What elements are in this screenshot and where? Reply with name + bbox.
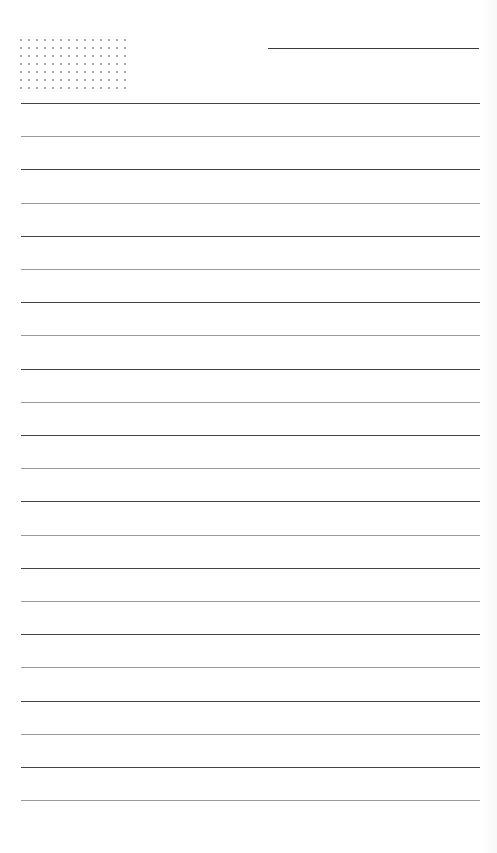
grid-dot xyxy=(44,71,46,73)
grid-dot xyxy=(28,47,30,49)
grid-dot xyxy=(84,39,86,41)
grid-dot xyxy=(60,55,62,57)
ruled-line xyxy=(21,203,480,204)
grid-dot xyxy=(108,87,110,89)
grid-dot xyxy=(60,71,62,73)
ruled-line xyxy=(21,302,480,303)
grid-dot xyxy=(92,87,94,89)
page-edge-shadow xyxy=(483,0,497,853)
grid-dot xyxy=(76,87,78,89)
grid-dot xyxy=(20,55,22,57)
grid-dot xyxy=(28,63,30,65)
grid-dot xyxy=(100,55,102,57)
grid-dot xyxy=(84,87,86,89)
grid-dot xyxy=(68,79,70,81)
grid-dot xyxy=(68,63,70,65)
grid-dot xyxy=(36,71,38,73)
grid-dot xyxy=(100,39,102,41)
grid-dot xyxy=(60,63,62,65)
grid-dot xyxy=(76,63,78,65)
grid-dot xyxy=(20,47,22,49)
grid-dot xyxy=(108,71,110,73)
grid-dot xyxy=(124,39,126,41)
grid-dot xyxy=(68,47,70,49)
grid-dot xyxy=(84,47,86,49)
grid-dot xyxy=(44,79,46,81)
grid-dot xyxy=(36,39,38,41)
ruled-line xyxy=(21,601,480,602)
grid-dot xyxy=(108,63,110,65)
grid-dot xyxy=(100,71,102,73)
grid-dot xyxy=(20,71,22,73)
grid-dot xyxy=(108,79,110,81)
grid-dot xyxy=(28,79,30,81)
title-line xyxy=(268,48,479,49)
grid-dot xyxy=(28,55,30,57)
ruled-line xyxy=(21,568,480,569)
grid-dot xyxy=(44,63,46,65)
ruled-line xyxy=(21,335,480,336)
grid-dot xyxy=(68,71,70,73)
grid-dot xyxy=(44,55,46,57)
grid-dot xyxy=(116,71,118,73)
grid-dot xyxy=(116,55,118,57)
grid-dot xyxy=(20,39,22,41)
grid-dot xyxy=(68,55,70,57)
grid-dot xyxy=(36,63,38,65)
grid-dot xyxy=(36,55,38,57)
ruled-line xyxy=(21,468,480,469)
grid-dot xyxy=(28,39,30,41)
grid-dot xyxy=(108,39,110,41)
grid-dot xyxy=(76,47,78,49)
grid-dot xyxy=(52,47,54,49)
grid-dot xyxy=(60,87,62,89)
grid-dot xyxy=(76,71,78,73)
grid-dot xyxy=(92,47,94,49)
grid-dot xyxy=(116,47,118,49)
grid-dot xyxy=(44,47,46,49)
ruled-line xyxy=(21,369,480,370)
grid-dot xyxy=(68,39,70,41)
grid-dot xyxy=(60,47,62,49)
grid-dot xyxy=(68,87,70,89)
grid-dot xyxy=(100,47,102,49)
grid-dot xyxy=(84,55,86,57)
grid-dot xyxy=(36,47,38,49)
grid-dot xyxy=(124,87,126,89)
grid-dot xyxy=(76,55,78,57)
ruled-line xyxy=(21,701,480,702)
ruled-line xyxy=(21,169,480,170)
grid-dot xyxy=(28,87,30,89)
ruled-line xyxy=(21,535,480,536)
grid-dot xyxy=(116,87,118,89)
grid-dot xyxy=(52,55,54,57)
grid-dot xyxy=(92,71,94,73)
grid-dot xyxy=(52,71,54,73)
grid-dot xyxy=(124,71,126,73)
grid-dot xyxy=(100,79,102,81)
grid-dot xyxy=(116,63,118,65)
grid-dot xyxy=(36,87,38,89)
ruled-line xyxy=(21,236,480,237)
grid-dot xyxy=(52,63,54,65)
ruled-line xyxy=(21,767,480,768)
ruled-line xyxy=(21,103,480,104)
grid-dot xyxy=(52,79,54,81)
grid-dot xyxy=(124,63,126,65)
grid-dot xyxy=(124,47,126,49)
grid-dot xyxy=(84,63,86,65)
ruled-line xyxy=(21,402,480,403)
grid-dot xyxy=(108,55,110,57)
ruled-line xyxy=(21,269,480,270)
grid-dot xyxy=(44,39,46,41)
grid-dot xyxy=(116,39,118,41)
notebook-page xyxy=(0,0,497,853)
grid-dot xyxy=(60,39,62,41)
grid-dot xyxy=(116,79,118,81)
grid-dot xyxy=(124,79,126,81)
ruled-line xyxy=(21,136,480,137)
grid-dot xyxy=(84,79,86,81)
ruled-line xyxy=(21,435,480,436)
grid-dot xyxy=(52,87,54,89)
ruled-line xyxy=(21,667,480,668)
